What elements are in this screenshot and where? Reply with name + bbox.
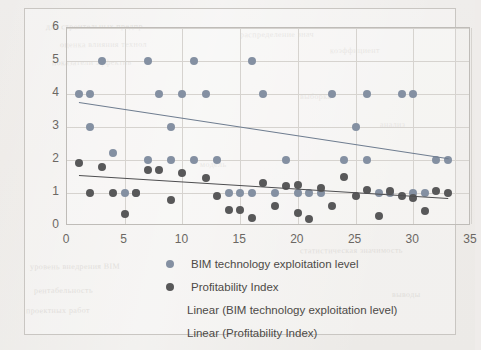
data-point: [132, 189, 140, 197]
gridline-horizontal: [67, 61, 469, 62]
data-point: [225, 189, 233, 197]
data-point: [259, 90, 267, 98]
data-point: [213, 192, 221, 200]
y-axis-tick-label: 6: [39, 19, 59, 33]
data-point: [98, 57, 106, 65]
legend-marker-dot: [157, 283, 183, 291]
data-point: [75, 90, 83, 98]
data-point: [202, 174, 210, 182]
gridline-horizontal: [67, 127, 469, 128]
data-point: [144, 166, 152, 174]
data-point: [352, 123, 360, 131]
data-point: [167, 156, 175, 164]
x-axis-tick-label: 25: [340, 232, 370, 246]
data-point: [248, 214, 256, 222]
data-point: [421, 207, 429, 215]
data-point: [294, 189, 302, 197]
legend-dot-icon: [166, 283, 174, 291]
gridline-horizontal: [67, 160, 469, 161]
x-axis-tick-label: 30: [397, 232, 427, 246]
data-point: [375, 212, 383, 220]
data-point: [167, 196, 175, 204]
y-axis-tick-label: 2: [39, 151, 59, 165]
legend-item-profitability-trendline[interactable]: Linear (Profitability Index): [157, 321, 397, 344]
data-point: [190, 57, 198, 65]
data-point: [271, 189, 279, 197]
data-point: [328, 90, 336, 98]
x-axis-tick-label: 10: [166, 232, 196, 246]
data-point: [86, 189, 94, 197]
data-point: [86, 123, 94, 131]
x-axis-tick-label: 0: [51, 232, 81, 246]
x-axis-tick-label: 35: [455, 232, 481, 246]
data-point: [398, 90, 406, 98]
legend-item-bim-dot[interactable]: BIM technology exploitation level: [157, 252, 397, 275]
data-point: [271, 202, 279, 210]
x-axis-tick-label: 20: [282, 232, 312, 246]
x-axis-tick-label: 5: [109, 232, 139, 246]
legend-marker-dot: [157, 260, 183, 268]
data-point: [144, 57, 152, 65]
data-point: [340, 156, 348, 164]
data-point: [236, 206, 244, 214]
legend-label: Linear (Profitability Index): [183, 327, 317, 339]
legend-label: BIM technology exploitation level: [183, 258, 359, 270]
data-point: [248, 189, 256, 197]
y-axis-tick-label: 3: [39, 118, 59, 132]
gridline-vertical: [471, 28, 472, 224]
y-axis-tick-label: 1: [39, 184, 59, 198]
legend-dot-icon: [166, 260, 174, 268]
data-point: [248, 57, 256, 65]
legend-label: Linear (BIM technology exploitation leve…: [183, 304, 397, 316]
data-point: [178, 169, 186, 177]
data-point: [225, 206, 233, 214]
data-point: [363, 90, 371, 98]
data-point: [167, 123, 175, 131]
data-point: [340, 173, 348, 181]
data-point: [109, 149, 117, 157]
y-axis-tick-label: 5: [39, 52, 59, 66]
trendline: [78, 102, 448, 159]
data-point: [155, 166, 163, 174]
data-point: [86, 90, 94, 98]
legend-label: Profitability Index: [183, 281, 279, 293]
data-point: [305, 215, 313, 223]
data-point: [282, 156, 290, 164]
y-axis-tick-label: 0: [39, 217, 59, 231]
data-point: [155, 90, 163, 98]
data-point: [236, 189, 244, 197]
legend-item-bim-trendline[interactable]: Linear (BIM technology exploitation leve…: [157, 298, 397, 321]
legend-item-profitability-dot[interactable]: Profitability Index: [157, 275, 397, 298]
data-point: [409, 90, 417, 98]
chart-legend: BIM technology exploitation levelProfita…: [157, 252, 397, 344]
chart-figure: 0123456 05101520253035 BIM technology ex…: [24, 8, 456, 335]
data-point: [75, 159, 83, 167]
data-point: [444, 189, 452, 197]
x-axis-tick-label: 15: [224, 232, 254, 246]
data-point: [109, 189, 117, 197]
data-point: [190, 156, 198, 164]
data-point: [121, 210, 129, 218]
data-point: [121, 189, 129, 197]
y-axis-tick-label: 4: [39, 85, 59, 99]
data-point: [98, 163, 106, 171]
data-point: [202, 90, 210, 98]
gridline-horizontal: [67, 28, 469, 29]
data-point: [213, 156, 221, 164]
gridline-vertical: [182, 28, 183, 224]
data-point: [432, 187, 440, 195]
data-point: [144, 156, 152, 164]
data-point: [328, 202, 336, 210]
data-point: [178, 90, 186, 98]
data-point: [294, 209, 302, 217]
plot-area: [66, 27, 470, 225]
data-point: [363, 156, 371, 164]
